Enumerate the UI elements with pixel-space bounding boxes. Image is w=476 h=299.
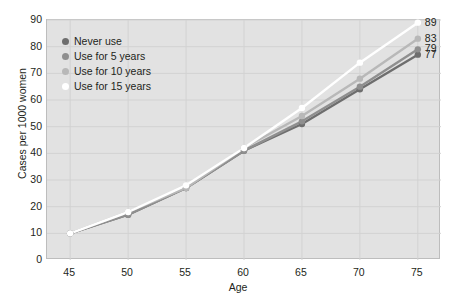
series-end-label: 79 [425, 43, 437, 54]
series-end-value-labels: 77798389 [0, 0, 476, 299]
series-end-label: 89 [425, 17, 437, 28]
chart-container: 0102030405060708090 Cases per 1000 women… [0, 0, 476, 299]
series-end-label: 83 [425, 33, 437, 44]
